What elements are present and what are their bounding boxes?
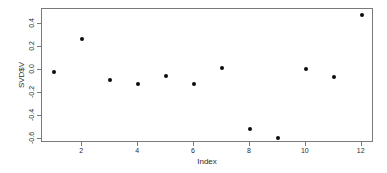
x-tick-mark [137, 142, 138, 146]
data-point [276, 136, 280, 140]
x-axis-label: Index [197, 157, 217, 166]
data-point [304, 67, 308, 71]
y-tick-mark [37, 23, 41, 24]
y-axis-label: SVD$V [17, 62, 26, 88]
plot-area [41, 8, 373, 142]
y-tick-label: -0.4 [28, 109, 35, 121]
data-point [192, 82, 196, 86]
x-tick-mark [193, 142, 194, 146]
data-point [220, 66, 224, 70]
y-tick-label: 0.0 [28, 64, 35, 74]
data-point [52, 70, 56, 74]
scatter-plot-figure: 246810120.40.20.0-0.2-0.4-0.6 Index SVD$… [0, 0, 387, 173]
y-tick-mark [37, 69, 41, 70]
y-tick-mark [37, 46, 41, 47]
x-tick-label: 10 [301, 147, 309, 154]
x-tick-label: 4 [135, 147, 139, 154]
y-tick-label: -0.2 [28, 86, 35, 98]
x-tick-mark [249, 142, 250, 146]
x-tick-mark [305, 142, 306, 146]
x-tick-label: 2 [79, 147, 83, 154]
data-point [164, 74, 168, 78]
y-tick-mark [37, 138, 41, 139]
y-tick-label: -0.6 [28, 132, 35, 144]
data-point [108, 78, 112, 82]
x-tick-label: 8 [247, 147, 251, 154]
x-tick-label: 12 [357, 147, 365, 154]
x-tick-mark [361, 142, 362, 146]
y-tick-label: 0.2 [28, 41, 35, 51]
data-point [332, 75, 336, 79]
data-point [360, 13, 364, 17]
data-point [80, 37, 84, 41]
y-tick-mark [37, 92, 41, 93]
y-tick-mark [37, 115, 41, 116]
x-tick-label: 6 [191, 147, 195, 154]
data-point [248, 127, 252, 131]
data-point [136, 82, 140, 86]
x-tick-mark [81, 142, 82, 146]
y-tick-label: 0.4 [28, 18, 35, 28]
